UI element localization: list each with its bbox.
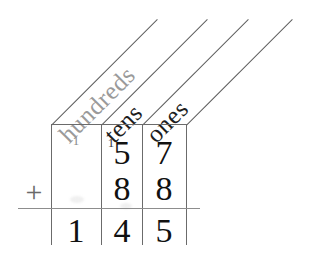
- cell-sum-hundreds: 1: [56, 214, 96, 248]
- answer-rule: [18, 208, 200, 209]
- cell-addend2-tens: 8: [102, 172, 142, 206]
- paper-smudge: [70, 196, 84, 203]
- carry-hundreds: 1: [69, 134, 83, 147]
- operator-plus: +: [22, 177, 46, 207]
- grid-vline-right: [186, 124, 187, 245]
- worksheet-page: hundreds tens ones + 1 1 5 7 8 8 1 4 5: [0, 0, 309, 260]
- diagonal-rule-ones-right: [186, 19, 293, 126]
- cell-sum-ones: 5: [144, 214, 184, 248]
- cell-addend1-ones: 7: [144, 136, 184, 170]
- cell-addend2-ones: 8: [144, 172, 184, 206]
- grid-top-edge: [51, 124, 186, 125]
- grid-vline-left: [51, 124, 52, 245]
- cell-addend1-tens: 5: [102, 136, 142, 170]
- grid-vline-tens-ones: [142, 124, 143, 245]
- cell-sum-tens: 4: [102, 214, 142, 248]
